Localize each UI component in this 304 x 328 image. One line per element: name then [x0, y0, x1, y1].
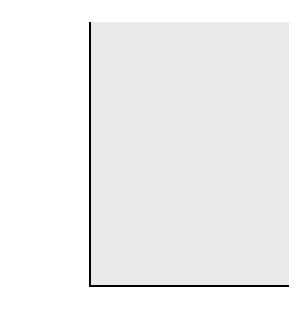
x-axis-ticks [0, 286, 304, 310]
gini-index-bar-chart [0, 0, 304, 328]
bar-rows [0, 22, 304, 285]
chart-header [90, 1, 289, 21]
